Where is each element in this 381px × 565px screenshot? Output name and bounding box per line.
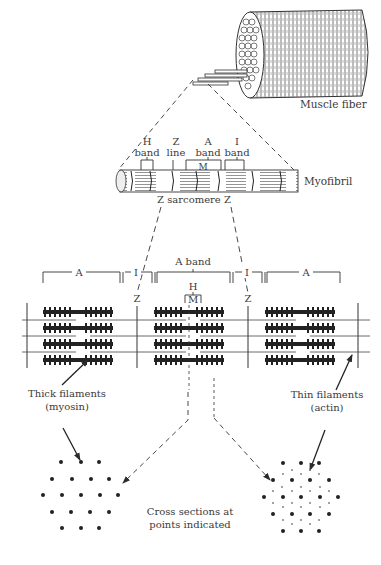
right-a-label: A bbox=[301, 267, 310, 278]
z-left-label: Z bbox=[134, 293, 141, 304]
a-band-label-1: A bbox=[203, 136, 212, 147]
i-band-label-2: band bbox=[224, 147, 250, 158]
sarcomere-label: Z sarcomere Z bbox=[157, 194, 231, 205]
left-a-label: A bbox=[74, 267, 83, 278]
myofibril-label: Myofibril bbox=[304, 175, 353, 187]
thick-filaments-label-2: (myosin) bbox=[45, 401, 89, 412]
h-band-label-1: H bbox=[143, 136, 152, 147]
cross-sections-label-1: Cross sections at bbox=[147, 506, 234, 517]
muscle-diagram: Muscle fiber H band bbox=[0, 0, 381, 565]
z-line-label-2: line bbox=[167, 147, 186, 158]
thick-filaments-label-1: Thick filaments bbox=[28, 388, 106, 399]
a-band-label: A band bbox=[174, 256, 211, 267]
z-right-label: Z bbox=[245, 293, 252, 304]
left-i-label: I bbox=[134, 267, 138, 278]
m-line-label-detail: M bbox=[188, 294, 198, 305]
m-line-label: M bbox=[198, 162, 207, 172]
h-zone-label: H bbox=[189, 281, 198, 292]
thin-filaments-label-2: (actin) bbox=[310, 402, 343, 413]
h-band-label-2: band bbox=[134, 147, 160, 158]
cross-sections-label-2: points indicated bbox=[149, 519, 231, 530]
myofibril: H band Z line A band I band M Myofibril … bbox=[116, 136, 353, 205]
a-band-label-2: band bbox=[195, 147, 221, 158]
muscle-fiber-label: Muscle fiber bbox=[300, 98, 368, 110]
cross-section-thick bbox=[41, 460, 120, 530]
z-line-label-1: Z bbox=[173, 136, 180, 147]
muscle-fiber: Muscle fiber bbox=[193, 10, 368, 110]
right-i-label: I bbox=[245, 267, 249, 278]
cross-section-pointers bbox=[123, 392, 270, 483]
filament-arrows bbox=[62, 355, 352, 470]
cross-section-thick-thin bbox=[262, 461, 340, 533]
thin-filaments-label-1: Thin filaments bbox=[291, 389, 364, 400]
i-band-label-1: I bbox=[235, 136, 239, 147]
